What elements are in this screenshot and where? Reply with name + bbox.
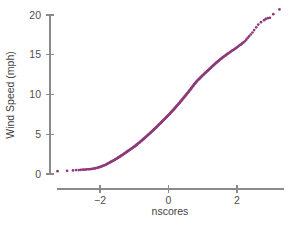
- data-series-wind-speed: [56, 8, 281, 172]
- y-tick-label: 10: [29, 88, 41, 100]
- data-point: [278, 8, 281, 11]
- y-tick-label: 0: [35, 168, 41, 180]
- data-point: [257, 23, 260, 26]
- data-point: [260, 21, 263, 24]
- data-point: [255, 26, 258, 29]
- data-point: [72, 169, 75, 172]
- qq-plot-svg: 05101520 −202 nscores Wind Speed (mph): [0, 0, 291, 226]
- x-axis-ticks: −202: [94, 185, 240, 206]
- y-tick-label: 20: [29, 9, 41, 21]
- x-tick-label: 2: [234, 194, 240, 206]
- x-axis-title: nscores: [152, 205, 189, 217]
- data-point: [272, 13, 275, 16]
- chart-figure: 05101520 −202 nscores Wind Speed (mph): [0, 0, 291, 226]
- data-point: [251, 31, 254, 34]
- x-tick-label: −2: [94, 194, 106, 206]
- data-point: [66, 169, 69, 172]
- y-tick-label: 15: [29, 48, 41, 60]
- data-point: [269, 16, 272, 19]
- data-point: [253, 29, 256, 32]
- y-tick-label: 5: [35, 128, 41, 140]
- data-point: [75, 169, 78, 172]
- data-point: [56, 170, 59, 173]
- y-axis-title: Wind Speed (mph): [4, 51, 16, 139]
